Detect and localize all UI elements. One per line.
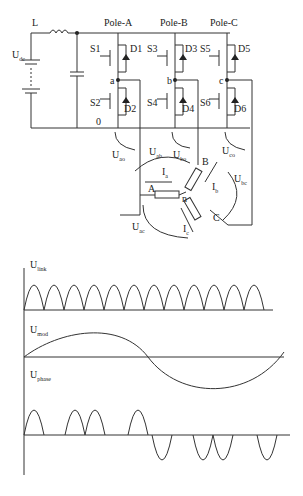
current-label: Ic [183,223,189,236]
battery-icon [22,60,40,93]
voltage-label: Uab [149,146,162,159]
inductor-icon [50,30,68,33]
pole-a-label: Pole-A [104,17,133,28]
load-node-label: B [202,156,209,167]
node-label: c [219,75,224,86]
pole-c-label: Pole-C [210,17,238,28]
diode-label: D2 [124,103,136,114]
u-mod-wave [24,333,284,389]
switch-label: S5 [200,43,211,54]
diode-label: D5 [238,43,250,54]
node-label: a [110,75,115,86]
u-mod-label: Umod [30,324,48,337]
voltage-label: Uco [222,145,235,158]
load-node-label: n [182,193,187,204]
wye-load [140,168,202,220]
waveforms [24,268,290,475]
pole-b-label: Pole-B [160,17,188,28]
switch-label: S6 [200,97,211,108]
voltage-label: Ubo [173,149,186,162]
ground-label: 0 [96,116,101,127]
inductor-label: L [32,17,38,28]
capacitor-icon [70,33,84,128]
load-node-label: A [148,183,156,194]
u-link-wave [24,285,264,310]
voltage-label: Ubc [234,173,247,186]
load-node-label: C [213,212,220,223]
diode-label: D4 [182,103,194,114]
switch-label: S3 [147,43,158,54]
diode-icon [179,54,187,60]
pole-legs [100,33,252,225]
source-label: Udc [12,49,25,62]
diode-label: D3 [185,43,197,54]
inverter-diagram: L Udc Pole-A Pole-B Pole-C [0,0,303,496]
current-label: Ia [162,166,168,179]
current-label: Ib [212,181,218,194]
resistor-icon [155,191,179,198]
diode-icon [231,54,239,60]
u-phase-label: Uphase [30,369,51,382]
u-link-label: Ulink [30,259,47,272]
diode-label: D1 [130,43,142,54]
switch-label: S2 [90,97,101,108]
diode-label: D6 [234,103,246,114]
diode-icon [122,54,130,60]
resistor-icon [185,168,202,191]
voltage-label: Uao [112,149,125,162]
node-label: b [167,75,172,86]
voltage-label: Uac [132,221,145,234]
switch-label: S1 [90,43,101,54]
switch-label: S4 [147,97,158,108]
